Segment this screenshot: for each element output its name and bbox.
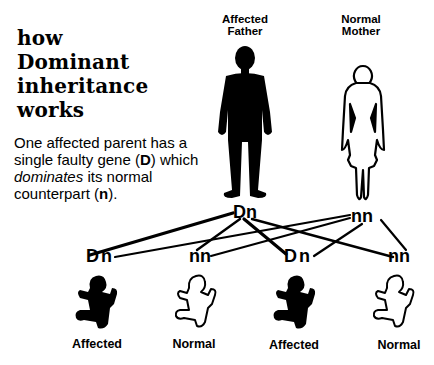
child-genotype: Dn <box>284 247 312 265</box>
child-label: Affected <box>254 339 334 352</box>
baby-affected-icon <box>274 276 316 329</box>
child-label: Affected <box>57 338 137 351</box>
baby-normal-icon <box>176 276 216 327</box>
child-genotype: Dn <box>86 247 114 265</box>
father-genotype: Dn <box>233 203 257 221</box>
baby-normal-icon <box>374 276 414 327</box>
child-label: Normal <box>154 338 234 351</box>
father-figure-icon <box>218 46 272 198</box>
child-genotype: nn <box>388 247 410 265</box>
child-genotype: nn <box>189 247 211 265</box>
mother-figure-icon <box>342 66 384 199</box>
child-label: Normal <box>359 339 434 352</box>
baby-affected-icon <box>76 276 118 329</box>
mother-genotype: nn <box>351 207 373 225</box>
pedigree-graphics <box>0 0 434 365</box>
